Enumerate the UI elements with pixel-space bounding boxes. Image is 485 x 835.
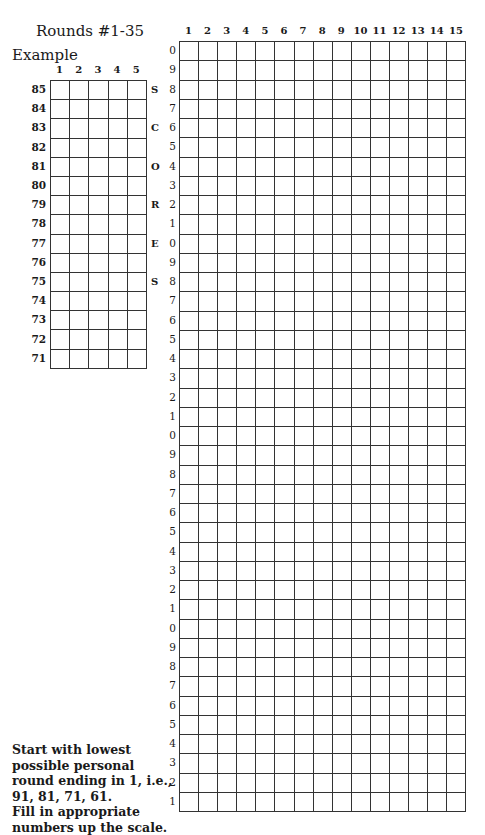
- score-cell[interactable]: [332, 696, 351, 715]
- score-cell[interactable]: [447, 253, 466, 272]
- score-cell[interactable]: [428, 350, 447, 369]
- score-cell[interactable]: [313, 61, 332, 80]
- score-cell[interactable]: [390, 542, 409, 561]
- score-cell[interactable]: [199, 407, 218, 426]
- score-cell[interactable]: [390, 350, 409, 369]
- score-cell[interactable]: [332, 119, 351, 138]
- score-cell[interactable]: [447, 619, 466, 638]
- score-cell[interactable]: [390, 658, 409, 677]
- score-cell[interactable]: [390, 234, 409, 253]
- score-cell[interactable]: [428, 561, 447, 580]
- score-cell[interactable]: [370, 138, 389, 157]
- score-cell[interactable]: [370, 658, 389, 677]
- score-cell[interactable]: [256, 311, 275, 330]
- score-cell[interactable]: [351, 561, 370, 580]
- score-cell[interactable]: [275, 735, 294, 754]
- score-cell[interactable]: [428, 504, 447, 523]
- score-cell[interactable]: [351, 253, 370, 272]
- score-cell[interactable]: [256, 99, 275, 118]
- score-cell[interactable]: [237, 581, 256, 600]
- score-cell[interactable]: [313, 273, 332, 292]
- score-cell[interactable]: [199, 561, 218, 580]
- score-cell[interactable]: [332, 561, 351, 580]
- score-cell[interactable]: [199, 350, 218, 369]
- score-cell[interactable]: [351, 42, 370, 61]
- score-cell[interactable]: [409, 388, 428, 407]
- score-cell[interactable]: [370, 196, 389, 215]
- score-cell[interactable]: [351, 638, 370, 657]
- score-cell[interactable]: [332, 638, 351, 657]
- score-cell[interactable]: [313, 330, 332, 349]
- score-cell[interactable]: [199, 369, 218, 388]
- score-cell[interactable]: [428, 484, 447, 503]
- score-cell[interactable]: [428, 600, 447, 619]
- score-cell[interactable]: [180, 350, 199, 369]
- score-cell[interactable]: [294, 504, 313, 523]
- score-cell[interactable]: [370, 735, 389, 754]
- score-cell[interactable]: [351, 542, 370, 561]
- score-cell[interactable]: [294, 581, 313, 600]
- score-cell[interactable]: [428, 253, 447, 272]
- score-cell[interactable]: [409, 561, 428, 580]
- score-cell[interactable]: [256, 523, 275, 542]
- score-cell[interactable]: [218, 330, 237, 349]
- score-cell[interactable]: [313, 388, 332, 407]
- score-cell[interactable]: [447, 311, 466, 330]
- score-cell[interactable]: [409, 407, 428, 426]
- score-cell[interactable]: [218, 677, 237, 696]
- score-cell[interactable]: [237, 715, 256, 734]
- score-cell[interactable]: [332, 99, 351, 118]
- score-cell[interactable]: [447, 638, 466, 657]
- score-cell[interactable]: [294, 99, 313, 118]
- score-cell[interactable]: [180, 619, 199, 638]
- score-cell[interactable]: [294, 600, 313, 619]
- score-cell[interactable]: [180, 407, 199, 426]
- score-cell[interactable]: [294, 427, 313, 446]
- score-cell[interactable]: [370, 369, 389, 388]
- score-cell[interactable]: [218, 253, 237, 272]
- score-cell[interactable]: [313, 792, 332, 811]
- score-cell[interactable]: [237, 561, 256, 580]
- score-cell[interactable]: [275, 369, 294, 388]
- score-cell[interactable]: [313, 99, 332, 118]
- score-cell[interactable]: [313, 619, 332, 638]
- score-cell[interactable]: [332, 292, 351, 311]
- score-cell[interactable]: [199, 215, 218, 234]
- score-cell[interactable]: [199, 542, 218, 561]
- score-cell[interactable]: [447, 561, 466, 580]
- score-cell[interactable]: [370, 773, 389, 792]
- score-cell[interactable]: [370, 619, 389, 638]
- score-cell[interactable]: [313, 311, 332, 330]
- score-cell[interactable]: [390, 388, 409, 407]
- score-cell[interactable]: [447, 234, 466, 253]
- score-cell[interactable]: [180, 157, 199, 176]
- score-cell[interactable]: [390, 484, 409, 503]
- score-cell[interactable]: [351, 735, 370, 754]
- score-cell[interactable]: [313, 773, 332, 792]
- score-cell[interactable]: [332, 427, 351, 446]
- score-cell[interactable]: [351, 215, 370, 234]
- score-cell[interactable]: [237, 61, 256, 80]
- score-cell[interactable]: [409, 196, 428, 215]
- score-cell[interactable]: [275, 311, 294, 330]
- score-cell[interactable]: [428, 176, 447, 195]
- score-cell[interactable]: [332, 658, 351, 677]
- score-cell[interactable]: [370, 427, 389, 446]
- score-cell[interactable]: [199, 638, 218, 657]
- score-cell[interactable]: [256, 215, 275, 234]
- score-cell[interactable]: [294, 253, 313, 272]
- score-cell[interactable]: [294, 292, 313, 311]
- score-cell[interactable]: [447, 484, 466, 503]
- score-cell[interactable]: [313, 715, 332, 734]
- score-cell[interactable]: [237, 234, 256, 253]
- score-cell[interactable]: [218, 234, 237, 253]
- score-cell[interactable]: [256, 292, 275, 311]
- score-cell[interactable]: [351, 619, 370, 638]
- score-cell[interactable]: [428, 311, 447, 330]
- score-cell[interactable]: [390, 42, 409, 61]
- score-cell[interactable]: [218, 773, 237, 792]
- score-cell[interactable]: [237, 215, 256, 234]
- score-cell[interactable]: [351, 754, 370, 773]
- score-cell[interactable]: [428, 138, 447, 157]
- score-cell[interactable]: [390, 773, 409, 792]
